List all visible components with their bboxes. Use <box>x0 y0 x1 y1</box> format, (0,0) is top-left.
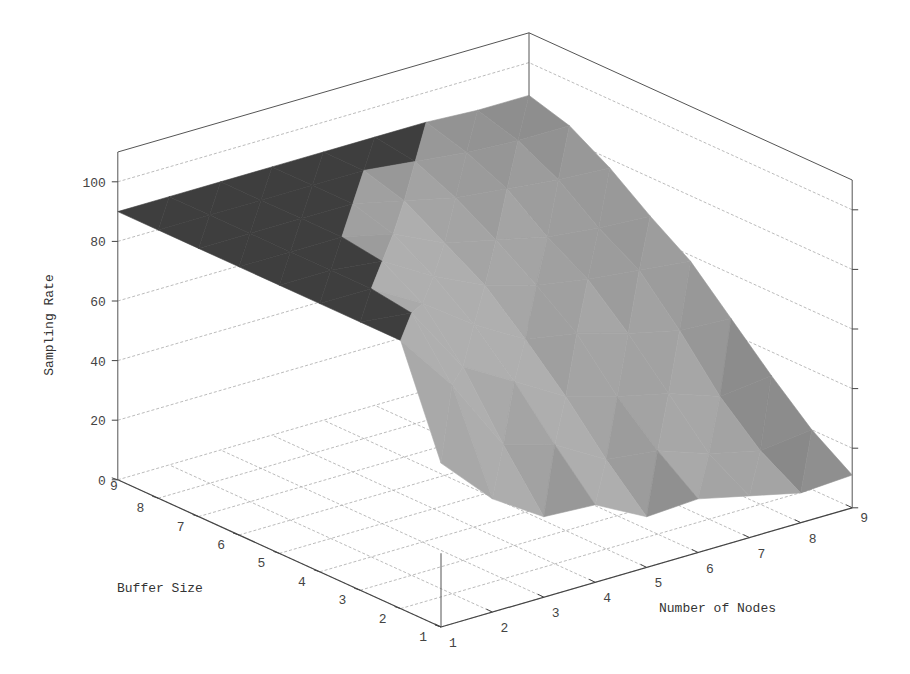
buffer-tick-label: 8 <box>136 501 144 516</box>
nodes-tick-label: 7 <box>757 547 765 562</box>
nodes-tick-label: 2 <box>500 621 508 636</box>
nodes-tick-label: 8 <box>809 532 817 547</box>
z-axis-label: Sampling Rate <box>42 274 57 375</box>
nodes-tick <box>486 609 492 612</box>
axis-line <box>118 480 441 627</box>
nodes-tick-label: 5 <box>655 576 663 591</box>
z-tick-label: 20 <box>90 414 106 429</box>
nodes-tick <box>589 579 595 582</box>
nodes-axis-label: Number of Nodes <box>659 601 776 616</box>
nodes-tick <box>743 535 749 538</box>
buffer-tick-label: 3 <box>338 593 346 608</box>
surface-chart: 020406080100123456789123456789 Sampling … <box>0 0 910 674</box>
nodes-tick-label: 9 <box>860 511 868 526</box>
buffer-tick-label: 9 <box>110 479 118 494</box>
buffer-tick-label: 4 <box>298 575 306 590</box>
z-tick-label: 0 <box>98 474 106 489</box>
nodes-tick-label: 4 <box>603 591 611 606</box>
buffer-tick-label: 7 <box>177 520 185 535</box>
nodes-tick <box>846 505 852 508</box>
nodes-tick <box>641 564 647 567</box>
z-tick-label: 100 <box>82 176 105 191</box>
z-tick-label: 60 <box>90 295 106 310</box>
buffer-axis-label: Buffer Size <box>117 581 203 596</box>
nodes-tick <box>692 550 698 553</box>
nodes-tick-label: 1 <box>449 636 457 651</box>
buffer-tick-label: 1 <box>419 630 427 645</box>
z-tick-label: 40 <box>90 355 106 370</box>
buffer-tick-label: 6 <box>217 538 225 553</box>
nodes-tick-label: 6 <box>706 562 714 577</box>
buffer-tick-label: 2 <box>379 612 387 627</box>
buffer-tick-label: 5 <box>258 556 266 571</box>
nodes-tick-label: 3 <box>552 606 560 621</box>
nodes-tick <box>795 520 801 523</box>
nodes-tick <box>538 594 544 597</box>
z-tick-label: 80 <box>90 235 106 250</box>
